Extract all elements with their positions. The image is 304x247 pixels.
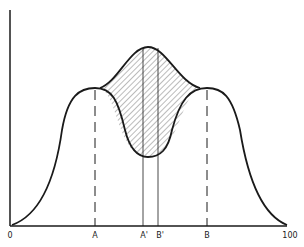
hatched-region: [100, 47, 200, 157]
label-origin: 0: [7, 231, 12, 240]
label-a: A: [92, 231, 97, 240]
label-b: B: [204, 231, 210, 240]
label-b-prime: B': [156, 231, 164, 240]
label-end: 100: [282, 231, 297, 240]
diagram-canvas: [0, 0, 304, 247]
label-a-prime: A': [140, 231, 148, 240]
